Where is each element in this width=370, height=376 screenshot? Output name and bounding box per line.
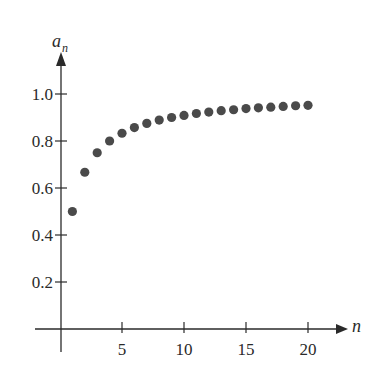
data-point <box>142 119 151 128</box>
data-point <box>204 107 213 116</box>
x-tick-label: 10 <box>176 340 193 359</box>
data-point <box>105 136 114 145</box>
data-point <box>130 123 139 132</box>
data-point <box>217 106 226 115</box>
x-tick-label: 5 <box>118 340 127 359</box>
x-tick-label: 20 <box>300 340 317 359</box>
y-tick-label: 0.8 <box>32 132 53 151</box>
data-point <box>155 115 164 124</box>
data-point <box>254 103 263 112</box>
data-point <box>229 105 238 114</box>
sequence-scatter-chart: 0.20.40.60.81.0 5101520 an n <box>0 0 370 376</box>
data-point <box>279 102 288 111</box>
axes <box>35 52 348 352</box>
y-tick-label: 0.6 <box>32 179 53 198</box>
data-points <box>68 101 313 216</box>
y-axis-ticks: 0.20.40.60.81.0 <box>32 85 67 292</box>
x-axis-label: n <box>352 316 361 336</box>
x-axis-ticks: 5101520 <box>118 322 317 359</box>
data-point <box>179 111 188 120</box>
y-tick-label: 0.4 <box>32 226 54 245</box>
data-point <box>80 168 89 177</box>
data-point <box>117 129 126 138</box>
data-point <box>266 103 275 112</box>
data-point <box>167 113 176 122</box>
y-tick-label: 1.0 <box>32 85 53 104</box>
data-point <box>241 104 250 113</box>
data-point <box>93 148 102 157</box>
y-tick-label: 0.2 <box>32 273 53 292</box>
x-axis-arrow-icon <box>336 324 348 334</box>
data-point <box>68 207 77 216</box>
x-tick-label: 15 <box>238 340 255 359</box>
data-point <box>291 101 300 110</box>
y-axis-label: an <box>52 31 68 55</box>
data-point <box>303 101 312 110</box>
data-point <box>192 109 201 118</box>
